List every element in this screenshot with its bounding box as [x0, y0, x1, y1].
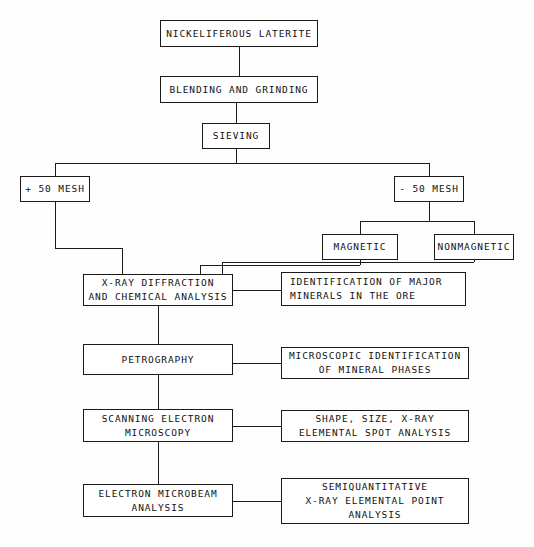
connector-mag-bus-to-magnetic [360, 221, 361, 234]
connector-split-bus-to-minus50 [429, 163, 430, 176]
connector-split-bus-to-plus50 [55, 163, 56, 176]
connector-nonmagnetic-to-non-drop [474, 260, 475, 262]
connector-drop-a-to-run-right [55, 248, 123, 249]
node-feed: NICKELIFEROUS LATERITE [160, 20, 318, 47]
connector-xrd-to-petrography [158, 306, 159, 344]
flowchart-canvas: NICKELIFEROUS LATERITEBLENDING AND GRIND… [0, 0, 534, 547]
connector-sieving-to-split-bus [236, 149, 237, 163]
node-plus50: + 50 MESH [20, 176, 90, 202]
node-nonmagnetic: NONMAGNETIC [434, 234, 514, 260]
node-identification: IDENTIFICATION OF MAJOR MINERALS IN THE … [281, 272, 466, 306]
node-blending: BLENDING AND GRINDING [160, 76, 318, 103]
node-magnetic: MAGNETIC [322, 234, 398, 260]
connector-split-bus-to-mesh-branches [55, 163, 429, 164]
node-shape: SHAPE, SIZE, X-RAY ELEMENTAL SPOT ANALYS… [281, 410, 469, 442]
node-petrography: PETROGRAPHY [83, 344, 233, 375]
connector-petrography-to-sem [158, 375, 159, 409]
node-microscopic: MICROSCOPIC IDENTIFICATION OF MINERAL PH… [281, 347, 469, 379]
connector-petrography-to-microscopic [233, 363, 281, 364]
connector-minus50-to-mag-bus [429, 202, 430, 221]
connector-sem-to-microbeam [158, 442, 159, 484]
connector-plus50-to-drop-a [55, 202, 56, 248]
connector-blending-to-sieving [236, 103, 237, 123]
node-sem: SCANNING ELECTRON MICROSCOPY [83, 409, 233, 442]
connector-mag-left-to-xrd [200, 265, 201, 274]
node-xrd: X-RAY DIFFRACTION AND CHEMICAL ANALYSIS [83, 274, 233, 306]
connector-feed-to-blending [239, 47, 240, 76]
connector-mag-drop-to-mag-left [200, 265, 360, 266]
connector-non-left-to-xrd [222, 262, 223, 274]
connector-non-drop-to-non-left [222, 262, 474, 263]
node-semiquant: SEMIQUANTITATIVE X-RAY ELEMENTAL POINT A… [281, 478, 469, 524]
connector-xrd-to-identification [233, 290, 281, 291]
connector-run-right-to-xrd [122, 248, 123, 274]
connector-mag-bus-to-nonmagnetic [474, 221, 475, 234]
node-minus50: - 50 MESH [394, 176, 464, 202]
node-sieving: SIEVING [202, 123, 270, 149]
node-microbeam: ELECTRON MICROBEAM ANALYSIS [83, 484, 233, 517]
connector-mag-bus-to-mag-branches [360, 221, 474, 222]
connector-microbeam-to-semiquant [233, 501, 281, 502]
connector-sem-to-shape [233, 426, 281, 427]
